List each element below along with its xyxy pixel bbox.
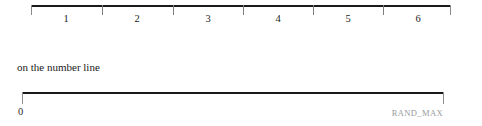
top-axis-tick-0 [31, 5, 32, 15]
top-axis-tick-5 [383, 5, 384, 15]
top-axis-tick-label-5: 5 [336, 13, 360, 25]
figure-caption: on the number line [17, 60, 100, 74]
bottom-axis-end-tick [443, 92, 444, 104]
bottom-axis-start-label: 0 [18, 106, 23, 118]
top-axis-tick-label-2: 2 [125, 13, 149, 25]
top-axis-tick-2 [173, 5, 174, 15]
top-axis-tick-label-3: 3 [196, 13, 220, 25]
top-number-line-axis [31, 5, 451, 7]
top-axis-tick-1 [102, 5, 103, 15]
top-axis-tick-label-1: 1 [54, 13, 78, 25]
bottom-number-line-axis [22, 92, 443, 94]
top-axis-tick-3 [243, 5, 244, 15]
top-axis-tick-4 [313, 5, 314, 15]
bottom-axis-end-label: RAND_MAX [392, 108, 443, 119]
top-axis-tick-label-6: 6 [406, 13, 430, 25]
bottom-axis-start-tick [22, 92, 23, 104]
number-line-figure: 123456 on the number line 0 RAND_MAX [0, 0, 482, 126]
top-axis-tick-label-4: 4 [266, 13, 290, 25]
top-axis-tick-6 [450, 5, 451, 15]
